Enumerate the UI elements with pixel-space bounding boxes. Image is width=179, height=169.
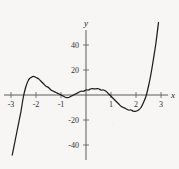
figure-container: -3 -2 -1 1 2 3 40 20 -20 -40 x y: [0, 0, 179, 169]
x-tick-label-neg1: -1: [58, 100, 65, 109]
x-tick-label-neg2: -2: [33, 100, 40, 109]
polynomial-graph: -3 -2 -1 1 2 3 40 20 -20 -40 x y: [0, 0, 179, 169]
x-tick-label-1: 1: [109, 100, 113, 109]
x-tick-label-2: 2: [134, 100, 138, 109]
x-axis-label: x: [170, 90, 175, 100]
y-tick-label-neg40: -40: [68, 141, 79, 150]
y-axis-label: y: [83, 18, 88, 28]
y-tick-label-neg20: -20: [68, 116, 79, 125]
x-tick-label-neg3: -3: [8, 100, 15, 109]
y-tick-label-20: 20: [71, 66, 79, 75]
polynomial-curve: [12, 23, 158, 156]
y-tick-label-40: 40: [71, 41, 79, 50]
x-tick-label-3: 3: [159, 100, 163, 109]
